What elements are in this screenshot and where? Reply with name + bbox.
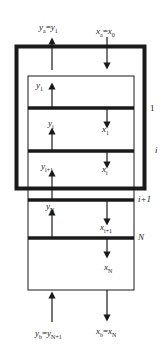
label-yi: yi (48, 118, 54, 132)
stage-label-i: i (155, 145, 158, 155)
label-vapor-in: yb=yN+1 (35, 328, 62, 342)
label-liquid-in: xa=x0 (96, 26, 115, 40)
stage-label-1: 1 (150, 103, 155, 113)
label-vapor-out: ya=y1 (39, 22, 58, 36)
label-y1: y1 (36, 80, 43, 94)
control-volume-box (17, 47, 145, 189)
label-xN: xN (104, 262, 112, 276)
stage-label-i-plus-1: i+1 (138, 194, 151, 204)
label-xi-plus-1: xi+1 (100, 222, 112, 236)
label-yN: yN (46, 201, 54, 215)
label-xi: xi (102, 164, 108, 178)
column-diagram (0, 0, 167, 358)
label-liquid-out: xb=xN (96, 326, 116, 340)
label-yi-plus-1: yi+1 (41, 161, 53, 175)
label-x1: x1 (102, 124, 109, 138)
stage-label-N: N (138, 232, 144, 242)
